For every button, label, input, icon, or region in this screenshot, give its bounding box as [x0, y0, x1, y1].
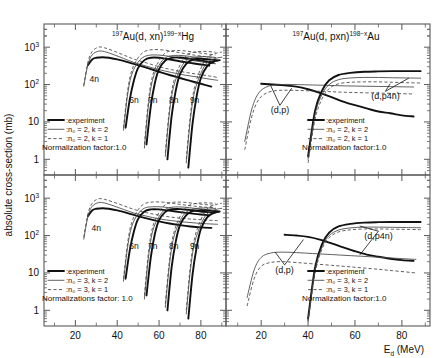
- y-axis-label-text: absolute cross-section (mb): [3, 114, 14, 237]
- annotation-label: (d,p4n): [371, 91, 400, 101]
- x-tick-label-bl-3: 80: [195, 330, 207, 341]
- x-tick-label-br-0: 20: [256, 330, 268, 341]
- legend-label: :n₀ = 2, k = 2: [66, 125, 108, 134]
- panel-frame: [226, 175, 430, 326]
- legend-normalization: Normalizations factor: 1.0: [42, 294, 133, 303]
- curve--d-p-experiment: [285, 235, 414, 261]
- x-tick-label-br-3: 80: [396, 330, 408, 341]
- legend-label: :experiment: [66, 267, 105, 276]
- legend-label: :experiment: [66, 116, 105, 125]
- legend-normalization: Normalization factor:1.0: [302, 143, 387, 152]
- legend-normalization: Normalization factor:1.0: [42, 143, 127, 152]
- y-tick-label-top-2: 10: [28, 116, 40, 127]
- annotation-label: (d,p): [275, 265, 294, 275]
- curve-9n-n0-2-k-1: [186, 52, 222, 159]
- x-tick-label-bl-0: 20: [70, 330, 82, 341]
- legend-normalization: Normalization factor:1.0: [302, 294, 387, 303]
- y-tick-label-bottom-1: 102: [24, 229, 39, 241]
- annotation-leader: [271, 85, 280, 105]
- curve-label-top-left-1: 6n: [129, 95, 139, 105]
- y-tick-label-top-1: 102: [24, 78, 39, 90]
- annotation-leader: [280, 88, 292, 105]
- annotation-top-right-dp4n: (d,p4n): [371, 78, 409, 101]
- curve-label-top-left-4: 9n: [190, 95, 200, 105]
- axes-bottom-right: [226, 175, 430, 326]
- y-tick-text: 1: [33, 305, 39, 316]
- legend-label: :experiment: [326, 116, 365, 125]
- y-tick-label-bottom-3: 1: [33, 305, 39, 316]
- x-tick-label-bl-1: 40: [112, 330, 124, 341]
- y-tick-text: 10: [28, 116, 40, 127]
- legend-label: :n₀ = 2, k = 2: [326, 125, 368, 134]
- curve-9n-n0-3-k-1: [186, 203, 222, 310]
- curve-label-bottom-left-4: 9n: [190, 241, 200, 251]
- annotation-bottom-right-dp4n: (d,p4n): [360, 226, 393, 255]
- y-tick-label-bottom-2: 10: [28, 267, 40, 278]
- y-axis-label: absolute cross-section (mb): [3, 114, 14, 237]
- legend-label: :n₀ = 3, k = 2: [66, 276, 108, 285]
- y-tick-text: 102: [24, 78, 39, 90]
- curve-9n-n0-2-k-2: [186, 57, 222, 163]
- curve-label-bottom-left-2: 7n: [148, 241, 158, 251]
- annotation-label: (d,p4n): [364, 231, 393, 241]
- y-tick-label-top-3: 1: [33, 154, 39, 165]
- x-axis-label: Ed (MeV): [384, 344, 424, 357]
- annotation-label: (d,p): [271, 105, 290, 115]
- y-tick-text: 10: [28, 267, 40, 278]
- y-tick-text: 103: [24, 41, 39, 53]
- curve-label-top-left-0: 4n: [89, 74, 99, 84]
- y-tick-label-bottom-0: 103: [24, 192, 39, 204]
- legend-top-left: :experiment:n₀ = 2, k = 2:n₀ = 2, k = 1N…: [42, 116, 127, 152]
- legend-bottom-left: :experiment:n₀ = 3, k = 2:n₀ = 3, k = 1N…: [42, 267, 133, 303]
- panel-title-top-left: 197Au(d, xn)199−xHg: [112, 30, 194, 42]
- legend-top-right: :experiment:n₀ = 2, k = 2:n₀ = 2, k = 1N…: [302, 116, 387, 152]
- y-tick-label-top-0: 103: [24, 41, 39, 53]
- curve-label-bottom-left-0: 4n: [92, 223, 102, 233]
- figure-canvas: 1031021011031021012040608020406080absolu…: [0, 0, 446, 358]
- curve-label-bottom-left-1: 6n: [129, 241, 139, 251]
- annotation-leader: [275, 252, 284, 265]
- x-tick-label-bl-2: 60: [153, 330, 165, 341]
- annotation-bottom-right-dp: (d,p): [275, 240, 303, 275]
- y-tick-text: 1: [33, 154, 39, 165]
- curve-4n-experiment: [88, 57, 211, 86]
- curve-label-bottom-left-3: 8n: [169, 241, 179, 251]
- x-tick-label-br-1: 40: [303, 330, 315, 341]
- y-tick-text: 102: [24, 229, 39, 241]
- curve-label-top-left-2: 7n: [148, 95, 158, 105]
- legend-label: :n₀ = 3, k = 2: [326, 276, 368, 285]
- curve-label-top-left-3: 8n: [169, 95, 179, 105]
- x-tick-label-br-2: 60: [349, 330, 361, 341]
- legend-label: :experiment: [326, 267, 365, 276]
- figure-root: 1031021011031021012040608020406080absolu…: [0, 0, 446, 358]
- curve-4n-n0-2-k-1: [84, 47, 218, 85]
- curve-4n-n0-3-k-1: [84, 199, 218, 238]
- y-tick-text: 103: [24, 192, 39, 204]
- annotation-leader: [385, 78, 409, 91]
- panel-title-top-right: 197Au(d, pxn)198−xAu: [292, 30, 379, 42]
